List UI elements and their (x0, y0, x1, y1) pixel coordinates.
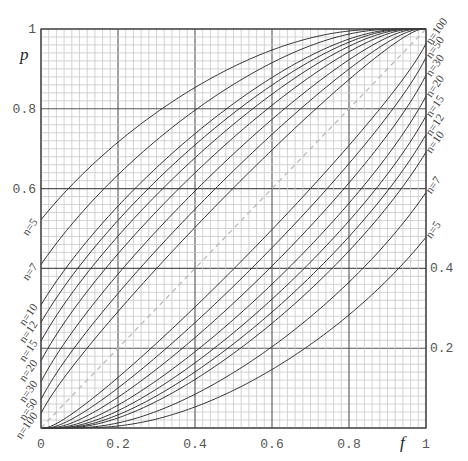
n-label-left: n=7 (19, 260, 39, 282)
x-tick-label: 0.4 (183, 437, 207, 452)
confidence-band-chart: 00.20.40.60.8110.80.60.40.2 n=5n=5n=7n=7… (0, 0, 468, 461)
x-axis-label: f (400, 433, 407, 452)
y-axis-label: p (19, 45, 29, 64)
x-tick-label: 0.2 (106, 437, 129, 452)
y-tick-label-left: 0.8 (13, 102, 36, 117)
y-tick-label-right: 0.4 (430, 261, 454, 276)
x-tick-label: 1 (422, 437, 430, 452)
x-tick-label: 0 (37, 437, 45, 452)
y-tick-label-left: 0.6 (13, 182, 36, 197)
y-tick-label-left: 1 (28, 22, 36, 37)
x-tick-label: 0.8 (337, 437, 360, 452)
x-tick-label: 0.6 (260, 437, 283, 452)
n-label-left: n=5 (19, 216, 39, 238)
y-tick-label-right: 0.2 (430, 341, 453, 356)
